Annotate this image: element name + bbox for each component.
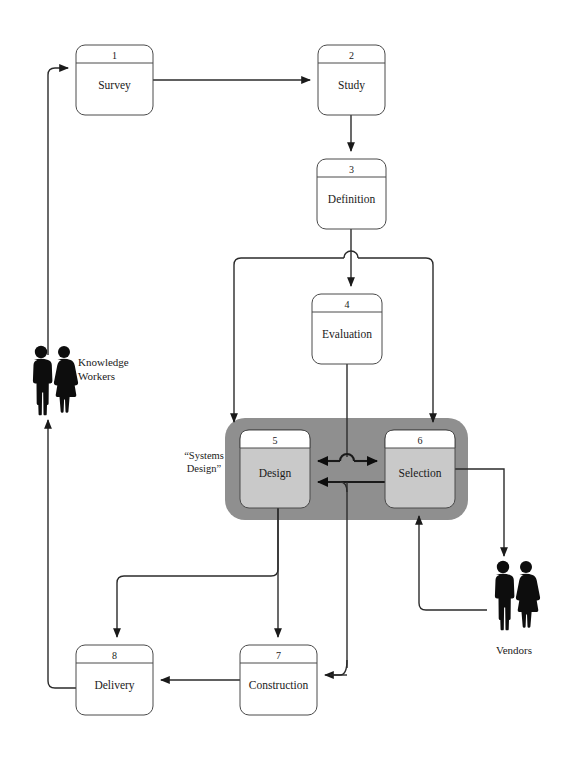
node-layer: 1 Survey 2 Study 3 Definition 4 Evaluati… <box>76 45 455 715</box>
systems-design-label-line1: “Systems <box>184 450 224 461</box>
node-selection-label: Selection <box>399 467 442 479</box>
actor-vendors: Vendors <box>495 561 540 656</box>
edge-layer <box>48 68 504 688</box>
node-evaluation-label: Evaluation <box>322 328 372 340</box>
edge-delivery-to-workers <box>48 420 76 688</box>
actor-vendors-label: Vendors <box>496 644 532 656</box>
actor-knowledge-workers-label-line2: Workers <box>78 370 115 382</box>
node-construction[interactable]: 7 Construction <box>240 645 317 715</box>
edge-selection-to-construction-bend <box>330 660 347 675</box>
node-design[interactable]: 5 Design <box>240 430 310 508</box>
node-selection-number: 6 <box>418 435 423 446</box>
node-design-number: 5 <box>273 435 278 446</box>
systems-design-label-line2: Design” <box>187 463 222 474</box>
edge-vendors-to-selection <box>419 516 487 610</box>
node-survey-number: 1 <box>112 50 117 61</box>
node-selection[interactable]: 6 Selection <box>385 430 455 508</box>
node-study[interactable]: 2 Study <box>318 45 385 115</box>
edge-workers-to-survey <box>48 68 68 355</box>
edge-design-to-delivery <box>117 508 278 637</box>
node-construction-number: 7 <box>276 650 281 661</box>
actor-knowledge-workers: Knowledge Workers <box>33 346 129 416</box>
node-delivery-label: Delivery <box>94 679 134 692</box>
node-study-label: Study <box>338 79 365 92</box>
node-evaluation-number: 4 <box>345 299 350 310</box>
person-female-icon-vendor <box>516 561 540 628</box>
node-evaluation[interactable]: 4 Evaluation <box>312 294 382 364</box>
node-delivery[interactable]: 8 Delivery <box>76 645 153 715</box>
node-delivery-number: 8 <box>112 650 117 661</box>
person-female-icon <box>54 346 78 413</box>
node-survey-label: Survey <box>98 79 131 92</box>
node-design-label: Design <box>259 467 292 480</box>
diagram-canvas: “Systems Design” <box>0 0 567 759</box>
node-definition[interactable]: 3 Definition <box>317 159 386 229</box>
actor-knowledge-workers-label-line1: Knowledge <box>78 356 129 368</box>
node-study-number: 2 <box>349 50 354 61</box>
person-male-icon <box>33 346 53 416</box>
node-definition-label: Definition <box>328 193 376 205</box>
node-survey[interactable]: 1 Survey <box>76 45 153 115</box>
person-male-icon-vendor <box>495 561 515 631</box>
node-definition-number: 3 <box>349 164 354 175</box>
node-construction-label: Construction <box>249 679 309 691</box>
